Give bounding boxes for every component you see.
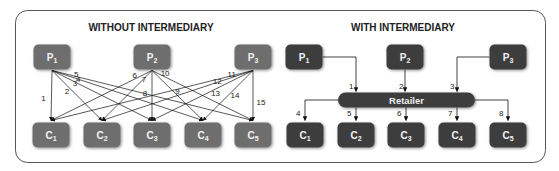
- right-consumer-box: C4: [439, 123, 476, 148]
- inbound-label: 3: [450, 82, 455, 91]
- left-consumer-box: C5: [235, 123, 272, 148]
- inbound-label: 2: [399, 82, 404, 91]
- link-label: 9: [175, 87, 180, 96]
- right-producer-box: P3: [490, 45, 527, 70]
- retailer-bar: Retailer: [338, 93, 475, 108]
- retailer-label: Retailer: [389, 95, 424, 106]
- intermediary-diagram: WITHOUT INTERMEDIARY WITH INTERMEDIARY 1…: [0, 0, 559, 171]
- left-consumer-box: C4: [185, 123, 222, 148]
- right-consumer-box: C1: [287, 123, 324, 148]
- outbound-label: 4: [296, 109, 301, 118]
- outbound-label: 6: [397, 109, 402, 118]
- left-producer-box: P2: [134, 45, 171, 70]
- outbound-label: 5: [347, 109, 352, 118]
- link-label: 10: [161, 69, 170, 78]
- link-label: 15: [257, 98, 266, 107]
- right-panel-title: WITH INTERMEDIARY: [351, 22, 455, 33]
- right-consumer-box: C5: [490, 123, 527, 148]
- link-label: 13: [211, 89, 220, 98]
- left-producer-box: P1: [34, 45, 71, 70]
- left-consumer-box: C3: [134, 123, 171, 148]
- link-label: 2: [65, 87, 70, 96]
- inbound-label: 1: [349, 82, 354, 91]
- right-producer-box: P2: [387, 45, 424, 70]
- left-panel-title: WITHOUT INTERMEDIARY: [88, 22, 214, 33]
- right-producer-box: P1: [286, 45, 323, 70]
- outbound-label: 8: [499, 109, 504, 118]
- link-label: 5: [74, 70, 79, 79]
- left-consumer-box: C2: [84, 123, 121, 148]
- outbound-label: 7: [448, 109, 453, 118]
- link-label: 6: [133, 71, 138, 80]
- link-label: 7: [142, 75, 147, 84]
- left-producer-box: P3: [235, 45, 272, 70]
- link-label: 12: [213, 77, 222, 86]
- left-consumer-box: C1: [33, 123, 70, 148]
- right-consumer-box: C2: [338, 123, 375, 148]
- link-label: 14: [231, 91, 240, 100]
- link-label: 1: [41, 94, 46, 103]
- right-consumer-box: C3: [388, 123, 425, 148]
